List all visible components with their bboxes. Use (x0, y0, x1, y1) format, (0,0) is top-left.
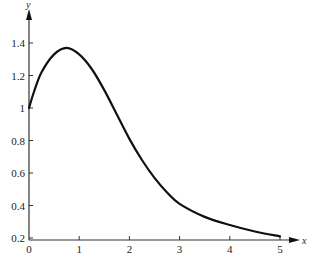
x-tick-label: 2 (127, 243, 133, 255)
axes (26, 9, 300, 243)
y-axis-label: y (25, 0, 31, 10)
y-tick-label: 1 (20, 102, 26, 114)
y-tick-label: 1.4 (11, 37, 25, 49)
y-tick-label: 0.6 (11, 167, 25, 179)
x-tick-label: 5 (277, 243, 283, 255)
y-tick-label: 1.2 (11, 70, 25, 82)
y-tick-label: 0.2 (11, 232, 25, 244)
x-tick-label: 1 (76, 243, 82, 255)
chart: 0123450.20.40.60.811.21.4 x y (0, 0, 315, 264)
x-tick-label: 3 (177, 243, 183, 255)
ticks: 0123450.20.40.60.811.21.4 (11, 37, 283, 255)
x-tick-label: 0 (26, 243, 32, 255)
x-axis-label: x (301, 235, 307, 246)
y-axis-arrow-icon (26, 9, 32, 20)
y-tick-label: 0.8 (11, 135, 25, 147)
data-curve (29, 48, 280, 237)
x-tick-label: 4 (227, 243, 233, 255)
y-tick-label: 0.4 (11, 200, 25, 212)
x-axis-arrow-icon (289, 237, 300, 243)
